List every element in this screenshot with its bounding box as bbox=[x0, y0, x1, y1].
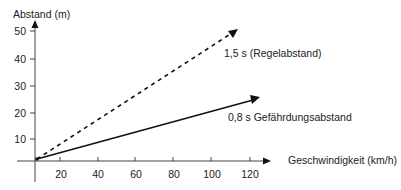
y-tick-label: 30 bbox=[4, 81, 26, 92]
x-tick-label: 40 bbox=[92, 169, 104, 180]
series-solid-arrow-icon bbox=[250, 95, 260, 104]
y-axis-label: Abstand (m) bbox=[13, 9, 70, 20]
x-tick-label: 20 bbox=[55, 169, 67, 180]
y-tick-label: 50 bbox=[4, 26, 26, 37]
chart: Abstand (m) Geschwindigkeit (km/h) 1,5 s… bbox=[0, 0, 401, 190]
x-tick-label: 60 bbox=[130, 169, 142, 180]
x-axis-arrow-icon bbox=[263, 158, 271, 165]
x-tick-label: 100 bbox=[203, 169, 221, 180]
series-solid-label: 0,8 s Gefährdungsabstand bbox=[228, 112, 352, 123]
x-ticks bbox=[60, 157, 250, 161]
series-dashed-label: 1,5 s (Regelabstand) bbox=[224, 48, 321, 59]
y-axis-arrow-icon bbox=[32, 20, 39, 28]
series-solid-line bbox=[37, 100, 253, 159]
series-dashed-arrow-icon bbox=[228, 29, 238, 38]
x-tick-label: 80 bbox=[168, 169, 180, 180]
x-axis-label: Geschwindigkeit (km/h) bbox=[288, 155, 397, 166]
origin-dot bbox=[35, 157, 39, 161]
y-ticks bbox=[30, 31, 35, 139]
series-dashed-line bbox=[37, 33, 232, 159]
y-tick-label: 20 bbox=[4, 108, 26, 119]
y-tick-label: 40 bbox=[4, 54, 26, 65]
y-tick-label: 10 bbox=[4, 134, 26, 145]
x-tick-label: 120 bbox=[241, 169, 259, 180]
